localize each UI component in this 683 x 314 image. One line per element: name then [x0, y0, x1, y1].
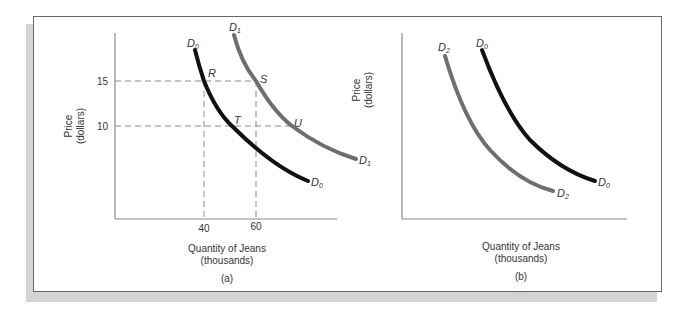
label-d1-top-a: D1 — [229, 21, 241, 34]
x-axis-label-line2: (thousands) — [201, 255, 254, 266]
panel-b: Price (dollars) Quantity of Jeans (thous… — [351, 33, 627, 282]
point-s: S — [260, 73, 268, 85]
point-u: U — [294, 117, 302, 129]
curve-d2-b — [445, 56, 553, 191]
label-d0-top-a: D0 — [187, 37, 199, 50]
x-axis-label-line1: Quantity of Jeans — [482, 241, 560, 252]
svg-text:Price: Price — [63, 114, 74, 137]
label-d2-end-b: D2 — [557, 187, 569, 200]
y-axis-label: Price (dollars) — [351, 72, 374, 108]
x-axis-label-line1: Quantity of Jeans — [188, 243, 266, 254]
reference-lines — [115, 81, 292, 219]
panel-a: 15 10 40 60 Price (dollars) Quantity of … — [63, 21, 371, 284]
x-axis-label-line2: (thousands) — [495, 253, 548, 264]
svg-text:(dollars): (dollars) — [75, 108, 86, 144]
caption-b: (b) — [515, 271, 527, 282]
label-d0-end-a: D0 — [311, 176, 323, 189]
y-axis-label: Price (dollars) — [63, 108, 86, 144]
xtick-60: 60 — [250, 221, 262, 232]
label-d0-top-b: D0 — [476, 37, 488, 50]
caption-a: (a) — [221, 273, 233, 284]
ytick-10: 10 — [97, 121, 109, 132]
point-t: T — [234, 114, 242, 126]
xtick-40: 40 — [198, 223, 210, 234]
label-d0-end-b: D0 — [598, 176, 610, 189]
svg-text:(dollars): (dollars) — [363, 72, 374, 108]
figure-canvas: 15 10 40 60 Price (dollars) Quantity of … — [0, 0, 683, 314]
ytick-15: 15 — [97, 76, 109, 87]
label-d2-top-b: D2 — [438, 41, 450, 54]
label-d1-end-a: D1 — [359, 154, 371, 167]
svg-text:Price: Price — [351, 78, 362, 101]
curve-d1-a — [234, 35, 356, 159]
point-r: R — [208, 67, 216, 79]
